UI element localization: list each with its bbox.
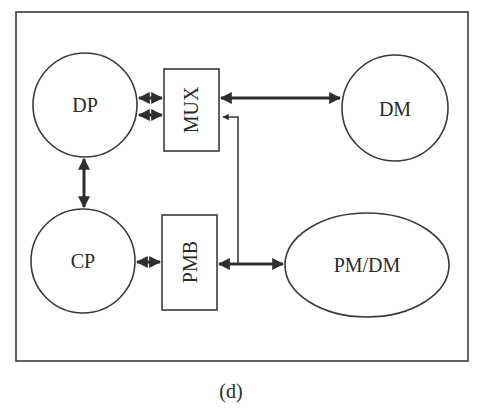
node-pmdm-label: PM/DM [334, 254, 401, 276]
node-pmb: PMB [162, 215, 217, 310]
node-dm: DM [342, 55, 448, 161]
node-cp-label: CP [71, 250, 95, 272]
node-cp: CP [31, 209, 135, 313]
node-pmb-label: PMB [179, 241, 201, 283]
edge-bus-to-mux [223, 117, 238, 264]
node-mux-label: MUX [180, 86, 202, 133]
architecture-diagram: DP MUX DM CP PMB PM/DM (d) [0, 0, 479, 410]
figure-caption: (d) [219, 380, 242, 403]
node-dp-label: DP [72, 94, 98, 116]
node-pmdm: PM/DM [285, 213, 449, 317]
node-dp: DP [33, 53, 137, 157]
node-mux: MUX [164, 69, 219, 151]
node-dm-label: DM [379, 98, 411, 120]
